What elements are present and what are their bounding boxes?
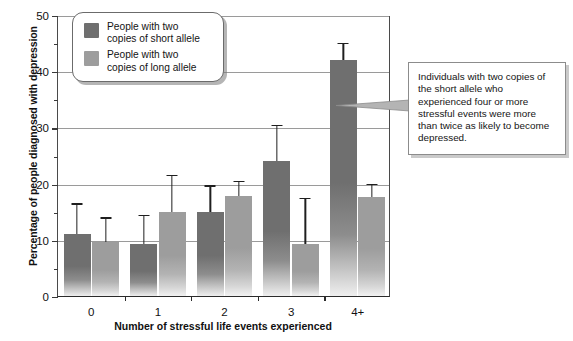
x-axis-title: Number of stressful life events experien… bbox=[55, 320, 391, 332]
error-bar-stem bbox=[371, 184, 372, 197]
y-tick-minor bbox=[54, 213, 59, 214]
legend-label-long: People with two copies of long allele bbox=[107, 49, 196, 73]
legend-swatch-icon-short bbox=[84, 23, 99, 38]
legend-label-long-line1: People with two bbox=[107, 49, 178, 60]
error-bar-short-4+ bbox=[330, 43, 357, 296]
error-bar-stem bbox=[171, 175, 172, 212]
y-tick-major bbox=[52, 241, 58, 242]
y-tick-label: 10 bbox=[36, 235, 49, 247]
callout-annotation: Individuals with two copies of the short… bbox=[408, 62, 566, 155]
error-bar-short-1 bbox=[130, 215, 157, 296]
error-bar-stem bbox=[305, 198, 306, 244]
y-tick-label: 50 bbox=[36, 10, 49, 22]
error-bar-short-3 bbox=[263, 125, 290, 296]
x-tick-label-2: 2 bbox=[221, 306, 227, 318]
x-tick bbox=[258, 296, 259, 301]
legend-swatch-icon-long bbox=[84, 51, 99, 66]
y-tick-major bbox=[52, 16, 58, 17]
x-tick bbox=[191, 296, 192, 301]
callout-pointer-icon bbox=[336, 98, 410, 114]
error-bar-stem bbox=[76, 203, 77, 234]
error-bar-cap bbox=[271, 125, 282, 126]
error-bar-cap bbox=[366, 184, 377, 185]
chart-figure: Percentage of people diagnosed with depr… bbox=[0, 0, 573, 341]
error-bar-cap bbox=[300, 198, 311, 199]
y-tick-label: 30 bbox=[36, 122, 49, 134]
legend-label-long-line2: copies of long allele bbox=[107, 62, 196, 73]
y-tick-label: 20 bbox=[36, 179, 49, 191]
error-bar-stem bbox=[105, 217, 106, 241]
y-tick-major bbox=[52, 128, 58, 129]
error-bar-cap bbox=[233, 181, 244, 182]
error-bar-stem bbox=[210, 185, 211, 211]
error-bar-cap bbox=[72, 203, 83, 204]
error-bar-stem bbox=[276, 125, 277, 162]
x-tick bbox=[324, 296, 325, 301]
error-bar-stem bbox=[238, 181, 239, 196]
y-tick-label: 0 bbox=[43, 291, 49, 303]
error-bar-long-1 bbox=[159, 175, 186, 296]
legend-item-long-allele: People with two copies of long allele bbox=[81, 49, 215, 73]
chart-legend: People with two copies of short allele P… bbox=[72, 12, 224, 82]
error-bar-short-0 bbox=[64, 203, 91, 296]
y-tick-major bbox=[52, 297, 58, 298]
x-tick-label-4+: 4+ bbox=[351, 306, 364, 318]
y-tick-major bbox=[52, 185, 58, 186]
error-bar-short-2 bbox=[197, 185, 224, 296]
error-bar-long-2 bbox=[225, 181, 252, 296]
y-tick-minor bbox=[54, 44, 59, 45]
legend-label-short-line2: copies of short allele bbox=[107, 33, 200, 44]
x-tick-label-3: 3 bbox=[288, 306, 294, 318]
error-bar-cap bbox=[338, 43, 349, 44]
error-bar-long-3 bbox=[292, 198, 319, 296]
y-tick-minor bbox=[54, 157, 59, 158]
error-bar-stem bbox=[343, 43, 344, 60]
error-bar-long-0 bbox=[92, 217, 119, 296]
error-bar-cap bbox=[167, 175, 178, 176]
y-tick-label: 40 bbox=[36, 66, 49, 78]
y-tick-major bbox=[52, 72, 58, 73]
error-bar-cap bbox=[138, 215, 149, 216]
legend-item-short-allele: People with two copies of short allele bbox=[81, 21, 215, 45]
y-tick-minor bbox=[54, 100, 59, 101]
error-bar-stem bbox=[143, 215, 144, 244]
error-bar-cap bbox=[205, 185, 216, 186]
error-bar-long-4+ bbox=[358, 184, 385, 296]
legend-label-short-line1: People with two bbox=[107, 21, 178, 32]
y-tick-minor bbox=[54, 269, 59, 270]
x-tick-label-1: 1 bbox=[155, 306, 161, 318]
error-bar-cap bbox=[100, 217, 111, 218]
x-tick-label-0: 0 bbox=[88, 306, 94, 318]
x-tick bbox=[125, 296, 126, 301]
legend-label-short: People with two copies of short allele bbox=[107, 21, 200, 45]
